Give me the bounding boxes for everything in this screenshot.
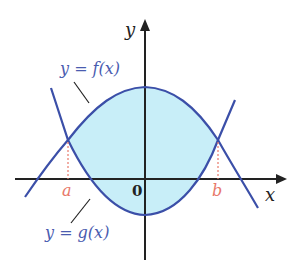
bound-b-label: b <box>212 181 222 200</box>
origin-label: 0 <box>132 182 142 200</box>
pointer-g <box>71 199 90 223</box>
y-axis-label: y <box>124 19 136 40</box>
bound-a-label: a <box>62 181 72 200</box>
y-axis-arrow-icon <box>140 19 150 31</box>
shaded-region <box>68 87 218 215</box>
area-between-curves-diagram: y x 0 a b y = f(x) y = g(x) <box>0 0 295 274</box>
pointer-f <box>74 82 89 103</box>
x-axis-label: x <box>265 184 275 205</box>
curve-g-label: y = g(x) <box>44 223 109 242</box>
curve-f-label: y = f(x) <box>59 59 120 78</box>
x-axis-arrow-icon <box>276 174 287 184</box>
